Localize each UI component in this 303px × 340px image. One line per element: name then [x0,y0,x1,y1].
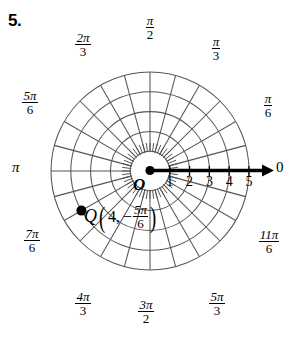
angle-label-4pi-over-3: 4π 3 [68,290,98,318]
angle-label-0: 0 [276,160,284,175]
angle-label-3pi-over-2: 3π 2 [133,298,159,326]
close-paren: ) [150,204,156,230]
origin-label: O [133,175,145,195]
point-label-q: Q ( 4, − 5π 6 ) [84,203,158,231]
point-radius: 4, [107,208,121,226]
angle-label-2pi-over-3: 2π 3 [68,31,98,59]
radial-tick-3: 3 [203,174,215,190]
minus-sign: − [121,208,133,226]
radial-tick-2: 2 [184,174,196,190]
radial-tick-5: 5 [243,174,255,190]
angle-label-pi-over-6: π 6 [255,92,281,120]
problem-number: 5. [8,11,21,31]
angle-label-7pi-over-6: 7π 6 [16,227,48,255]
angle-label-pi-over-2: π 2 [137,14,163,42]
polar-grid-figure [0,0,303,340]
point-name: Q [84,206,97,227]
angle-label-5pi-over-6: 5π 6 [14,89,46,117]
angle-label-5pi-over-3: 5π 3 [203,290,231,318]
angle-label-pi: π [12,160,20,175]
radial-tick-1: 1 [164,174,176,190]
origin-dot [145,166,154,175]
angle-label-11pi-over-6: 11π 6 [250,228,288,256]
point-angle-fraction: 5π 6 [133,203,148,231]
radial-tick-4: 4 [223,174,235,190]
open-paren: ( [99,204,105,230]
angle-label-pi-over-3: π 3 [203,35,229,63]
